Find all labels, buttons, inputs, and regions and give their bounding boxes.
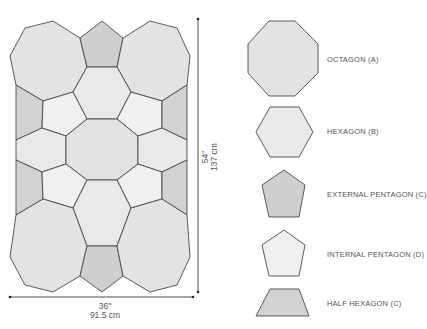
legend-half-hexagon-icon <box>256 289 309 316</box>
external-pentagon-top <box>80 21 123 67</box>
legend-internal-pentagon-icon <box>262 230 305 276</box>
external-pentagon-bottom <box>80 246 123 292</box>
height-cm: 137 cm <box>210 137 219 177</box>
octagon-center <box>66 119 138 180</box>
height-dimension-start <box>197 18 200 21</box>
legend-label-external-pentagon: EXTERNAL PENTAGON (C) <box>327 190 427 199</box>
height-dimension-label: 54" 137 cm <box>201 137 219 177</box>
height-dimension-end <box>197 291 200 294</box>
legend-external-pentagon-icon <box>262 170 305 217</box>
width-cm: 91.5 cm <box>75 311 135 320</box>
legend-label-half-hexagon: HALF HEXAGON (C) <box>327 299 401 308</box>
legend-label-hexagon: HEXAGON (B) <box>327 127 379 136</box>
width-dimension-start <box>9 296 12 299</box>
legend-octagon-icon <box>248 21 318 96</box>
legend-label-octagon: OCTAGON (A) <box>327 55 379 64</box>
legend-hexagon-icon <box>256 107 313 157</box>
width-dimension-label: 36" 91.5 cm <box>75 302 135 320</box>
width-dimension-end <box>192 296 195 299</box>
legend-label-internal-pentagon: INTERNAL PENTAGON (D) <box>327 250 424 259</box>
